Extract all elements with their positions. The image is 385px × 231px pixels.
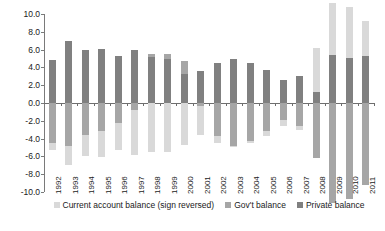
x-axis-tick-mark — [325, 103, 326, 106]
bar-segment — [247, 63, 254, 103]
bar-segment — [164, 103, 171, 152]
bar-group — [313, 14, 320, 192]
y-axis-tick-label: -4.0 — [25, 134, 40, 143]
bar-segment — [313, 48, 320, 93]
x-axis-tick-mark — [209, 103, 210, 106]
legend-label: Private balance — [306, 201, 365, 210]
x-axis-tick-mark — [374, 103, 375, 106]
x-axis-tick-label: 2001 — [204, 176, 212, 194]
bar-segment — [148, 54, 155, 57]
x-axis-tick-label: 2002 — [220, 176, 228, 194]
bar-segment — [280, 120, 287, 126]
bar-segment — [247, 103, 254, 141]
x-axis-tick-mark — [110, 103, 111, 106]
x-axis-tick-label: 1997 — [138, 176, 146, 194]
x-axis-tick-label: 2005 — [270, 176, 278, 194]
bar-segment — [115, 103, 122, 123]
bar-segment — [82, 50, 89, 103]
x-axis-tick-label: 1998 — [154, 176, 162, 194]
bar-segment — [346, 7, 353, 58]
bar-group — [230, 14, 237, 192]
bar-segment — [65, 41, 72, 103]
bar-segment — [346, 58, 353, 103]
bar-segment — [230, 59, 237, 104]
bar-segment — [148, 103, 155, 152]
x-axis-tick-mark — [127, 103, 128, 106]
y-axis-tick-label: 0.0 — [28, 99, 40, 108]
x-axis-tick-label: 1993 — [72, 176, 80, 194]
bar-segment — [49, 60, 56, 103]
y-axis-labels: 10.08.06.04.02.00.0-2.0-4.0-6.0-8.0-10.0 — [0, 0, 40, 231]
bar-segment — [131, 50, 138, 103]
y-axis-tick-mark — [41, 103, 44, 104]
x-axis-tick-mark — [226, 103, 227, 106]
bar-segment — [247, 141, 254, 143]
bar-segment — [214, 63, 221, 103]
legend-swatch-icon — [225, 202, 231, 208]
bar-segment — [214, 136, 221, 143]
y-axis-tick-label: -6.0 — [25, 152, 40, 161]
x-axis-tick-label: 2009 — [336, 176, 344, 194]
x-axis-tick-label: 2000 — [187, 176, 195, 194]
y-axis-tick-label: -10.0 — [21, 188, 40, 197]
bar-group — [65, 14, 72, 192]
y-axis-tick-label: 8.0 — [28, 28, 40, 37]
bar-segment — [181, 74, 188, 103]
bar-segment — [280, 80, 287, 103]
bar-segment — [263, 70, 270, 103]
bar-group — [49, 14, 56, 192]
x-axis-tick-mark — [193, 103, 194, 106]
x-axis-tick-mark — [341, 103, 342, 106]
bar-segment — [362, 56, 369, 103]
x-axis-tick-mark — [292, 103, 293, 106]
legend-label: Gov't balance — [234, 201, 286, 210]
y-axis-tick-mark — [41, 174, 44, 175]
bar-segment — [98, 131, 105, 158]
bar-segment — [280, 103, 287, 120]
y-axis-tick-label: -2.0 — [25, 117, 40, 126]
x-axis-tick-label: 1995 — [105, 176, 113, 194]
legend-item: Current account balance (sign reversed) — [54, 201, 215, 210]
bar-group — [296, 14, 303, 192]
x-axis-tick-mark — [160, 103, 161, 106]
x-axis-tick-label: 1992 — [55, 176, 63, 194]
bar-segment — [65, 103, 72, 146]
bar-segment — [164, 59, 171, 103]
bar-segment — [181, 103, 188, 145]
x-axis-tick-mark — [259, 103, 260, 106]
bar-segment — [313, 103, 320, 158]
bar-group — [197, 14, 204, 192]
x-axis-tick-label: 2006 — [286, 176, 294, 194]
y-axis-tick-mark — [41, 156, 44, 157]
x-axis-tick-label: 2010 — [352, 176, 360, 194]
bar-group — [164, 14, 171, 192]
bar-segment — [65, 146, 72, 166]
y-axis-tick-mark — [41, 121, 44, 122]
y-axis-tick-mark — [41, 67, 44, 68]
bar-segment — [49, 103, 56, 143]
y-axis-tick-label: 6.0 — [28, 45, 40, 54]
x-axis-tick-mark — [61, 103, 62, 106]
y-axis-tick-label: 10.0 — [23, 10, 40, 19]
chart-legend: Current account balance (sign reversed)G… — [44, 199, 374, 211]
bar-segment — [230, 146, 237, 148]
bar-segment — [98, 103, 105, 131]
bar-segment — [181, 61, 188, 73]
bar-segment — [197, 71, 204, 103]
x-axis-tick-label: 1996 — [121, 176, 129, 194]
bar-segment — [82, 135, 89, 156]
bar-segment — [197, 106, 204, 135]
bar-segment — [131, 110, 138, 155]
bar-segment — [362, 103, 369, 185]
y-axis-tick-mark — [41, 32, 44, 33]
bar-segment — [131, 103, 138, 110]
y-axis-tick-label: 4.0 — [28, 63, 40, 72]
bar-segment — [362, 21, 369, 56]
bar-group — [98, 14, 105, 192]
bar-segment — [82, 103, 89, 135]
x-axis-tick-label: 2004 — [253, 176, 261, 194]
bar-group — [346, 14, 353, 192]
bar-segment — [263, 131, 270, 135]
y-axis-tick-label: -8.0 — [25, 170, 40, 179]
x-axis-tick-label: 2007 — [303, 176, 311, 194]
